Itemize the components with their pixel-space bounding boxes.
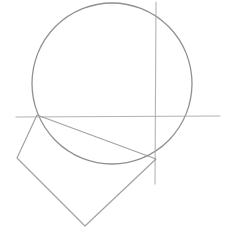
sketch-canvas — [0, 0, 234, 249]
sketch-svg — [0, 0, 234, 249]
canvas-background — [0, 0, 234, 249]
